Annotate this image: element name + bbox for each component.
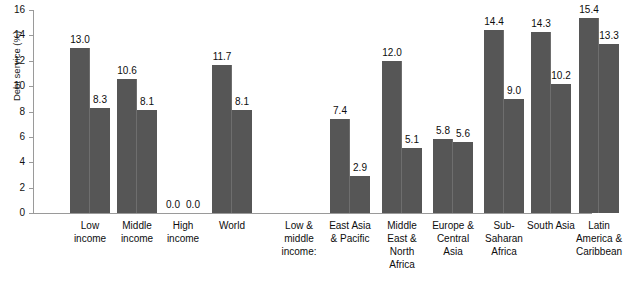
x-label-world: World bbox=[201, 219, 263, 232]
bar-sub-saharan-africa-2 bbox=[504, 99, 524, 213]
y-tick-mark bbox=[29, 35, 33, 36]
y-tick-mark bbox=[29, 188, 33, 189]
y-tick-mark bbox=[29, 10, 33, 11]
value-label-east-asia-pacific-1: 7.4 bbox=[323, 106, 357, 116]
value-label-middle-east-north-africa-1: 12.0 bbox=[375, 48, 409, 58]
bar-south-asia-1 bbox=[531, 32, 551, 213]
y-tick-label: 10 bbox=[3, 81, 25, 91]
y-tick-label: 12 bbox=[3, 56, 25, 66]
value-label-middle-east-north-africa-2: 5.1 bbox=[395, 135, 429, 145]
y-axis-line bbox=[33, 10, 34, 213]
bar-latin-america-caribbean-2 bbox=[599, 44, 619, 213]
value-label-high-income-2: 0.0 bbox=[176, 200, 210, 210]
y-tick-mark bbox=[29, 162, 33, 163]
value-label-middle-income-1: 10.6 bbox=[110, 66, 144, 76]
x-axis-line bbox=[33, 213, 592, 214]
bar-europe-central-asia-1 bbox=[433, 139, 453, 213]
bar-south-asia-2 bbox=[551, 84, 571, 213]
value-label-sub-saharan-africa-2: 9.0 bbox=[497, 86, 531, 96]
y-axis-label: Debt service (%) bbox=[11, 11, 23, 121]
value-label-world-2: 8.1 bbox=[225, 97, 259, 107]
value-label-sub-saharan-africa-1: 14.4 bbox=[477, 17, 511, 27]
y-tick-mark bbox=[29, 137, 33, 138]
value-label-world-1: 11.7 bbox=[205, 52, 239, 62]
y-tick-mark bbox=[29, 213, 33, 214]
value-label-middle-income-2: 8.1 bbox=[130, 97, 164, 107]
bar-world-1 bbox=[212, 65, 232, 213]
bar-latin-america-caribbean-1 bbox=[579, 18, 599, 213]
y-tick-label: 6 bbox=[3, 132, 25, 142]
y-tick-label: 16 bbox=[3, 5, 25, 15]
bar-sub-saharan-africa-1 bbox=[484, 30, 504, 213]
value-label-low-income-1: 13.0 bbox=[63, 35, 97, 45]
y-tick-label: 14 bbox=[3, 30, 25, 40]
plot-area: 0246810121416 13.08.310.68.10.00.011.78.… bbox=[33, 10, 592, 213]
y-tick-label: 0 bbox=[3, 208, 25, 218]
y-tick-mark bbox=[29, 61, 33, 62]
y-tick-label: 2 bbox=[3, 183, 25, 193]
value-label-south-asia-1: 14.3 bbox=[524, 19, 558, 29]
value-label-south-asia-2: 10.2 bbox=[544, 71, 578, 81]
bar-low-income-1 bbox=[70, 48, 90, 213]
value-label-latin-america-caribbean-2: 13.3 bbox=[592, 31, 626, 41]
bar-middle-income-2 bbox=[137, 110, 157, 213]
bar-east-asia-pacific-2 bbox=[350, 176, 370, 213]
y-tick-label: 8 bbox=[3, 107, 25, 117]
bar-low-income-2 bbox=[90, 108, 110, 213]
value-label-east-asia-pacific-2: 2.9 bbox=[343, 163, 377, 173]
x-label-latin-america-caribbean: Latin America & Caribbean bbox=[568, 219, 627, 258]
value-label-europe-central-asia-2: 5.6 bbox=[446, 129, 480, 139]
bar-world-2 bbox=[232, 110, 252, 213]
y-tick-label: 4 bbox=[3, 157, 25, 167]
y-tick-mark bbox=[29, 112, 33, 113]
value-label-low-income-2: 8.3 bbox=[83, 95, 117, 105]
value-label-latin-america-caribbean-1: 15.4 bbox=[572, 5, 606, 15]
bar-middle-east-north-africa-2 bbox=[402, 148, 422, 213]
y-tick-mark bbox=[29, 86, 33, 87]
bar-europe-central-asia-2 bbox=[453, 142, 473, 213]
